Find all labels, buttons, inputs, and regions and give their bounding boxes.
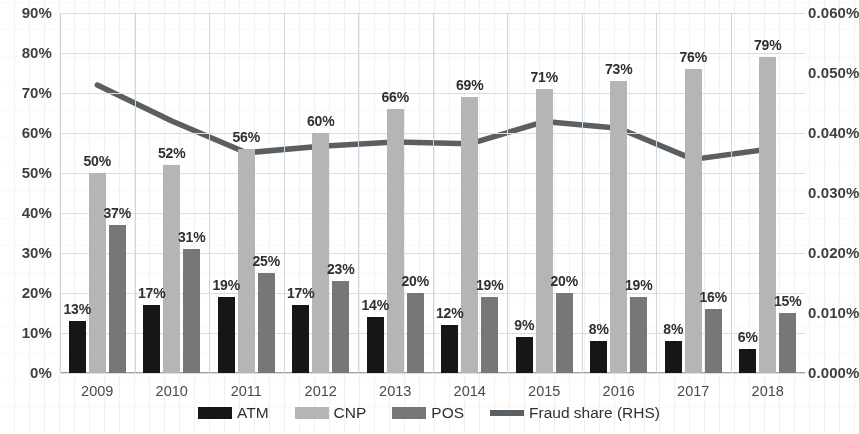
x-axis-tick-2016: 2016 <box>589 383 649 399</box>
bar-atm-2018 <box>739 349 756 373</box>
legend-item-cnp[interactable]: CNP <box>295 404 367 422</box>
bar-value-label: 56% <box>224 129 268 145</box>
y-axis-right-tick: 0.030% <box>808 184 859 201</box>
bar-pos-2009 <box>109 225 126 373</box>
bar-value-label: 12% <box>428 305 472 321</box>
bar-pos-2013 <box>407 293 424 373</box>
bar-atm-2016 <box>590 341 607 373</box>
bar-atm-2015 <box>516 337 533 373</box>
category-separator <box>209 13 210 373</box>
x-axis-tick-2018: 2018 <box>738 383 798 399</box>
legend-label: ATM <box>237 404 269 422</box>
y-axis-left-tick: 80% <box>22 44 52 61</box>
y-axis-left-tick: 30% <box>22 244 52 261</box>
bar-cnp-2013 <box>387 109 404 373</box>
y-axis-left-tick: 50% <box>22 164 52 181</box>
bar-value-label: 25% <box>244 253 288 269</box>
bar-value-label: 20% <box>542 273 586 289</box>
x-axis-tick-2013: 2013 <box>365 383 425 399</box>
category-separator <box>135 13 136 373</box>
y-axis-left-tick: 20% <box>22 284 52 301</box>
y-axis-right-tick: 0.040% <box>808 124 859 141</box>
y-axis-right-tick: 0.020% <box>808 244 859 261</box>
bar-value-label: 8% <box>577 321 621 337</box>
bar-value-label: 66% <box>373 89 417 105</box>
x-axis-tick-2012: 2012 <box>291 383 351 399</box>
bar-value-label: 19% <box>468 277 512 293</box>
bar-atm-2014 <box>441 325 458 373</box>
bar-atm-2017 <box>665 341 682 373</box>
legend-item-fraud-share-rhs[interactable]: Fraud share (RHS) <box>490 404 660 422</box>
bar-pos-2015 <box>556 293 573 373</box>
bar-value-label: 16% <box>691 289 735 305</box>
bar-value-label: 17% <box>279 285 323 301</box>
bar-pos-2010 <box>183 249 200 373</box>
y-axis-right-tick: 0.000% <box>808 364 859 381</box>
bar-pos-2018 <box>779 313 796 373</box>
x-axis-tick-2017: 2017 <box>663 383 723 399</box>
bar-value-label: 79% <box>746 37 790 53</box>
legend-label: CNP <box>334 404 367 422</box>
bar-value-label: 31% <box>170 229 214 245</box>
bar-cnp-2009 <box>89 173 106 373</box>
legend-label: POS <box>431 404 464 422</box>
bar-value-label: 14% <box>353 297 397 313</box>
legend-swatch-icon <box>295 407 329 419</box>
x-axis-tick-2010: 2010 <box>142 383 202 399</box>
legend-item-pos[interactable]: POS <box>392 404 464 422</box>
bar-pos-2016 <box>630 297 647 373</box>
x-axis-tick-2014: 2014 <box>440 383 500 399</box>
bar-value-label: 60% <box>299 113 343 129</box>
category-separator <box>582 13 583 373</box>
legend-item-atm[interactable]: ATM <box>198 404 269 422</box>
bar-pos-2011 <box>258 273 275 373</box>
legend-swatch-icon <box>392 407 426 419</box>
category-separator <box>60 13 61 373</box>
bar-pos-2014 <box>481 297 498 373</box>
bar-cnp-2012 <box>312 133 329 373</box>
y-axis-left-tick: 90% <box>22 4 52 21</box>
x-axis-tick-2009: 2009 <box>67 383 127 399</box>
category-separator <box>731 13 732 373</box>
bar-atm-2010 <box>143 305 160 373</box>
bar-value-label: 15% <box>766 293 810 309</box>
bar-value-label: 6% <box>726 329 770 345</box>
x-axis-tick-2011: 2011 <box>216 383 276 399</box>
y-axis-right-tick: 0.050% <box>808 64 859 81</box>
bar-atm-2013 <box>367 317 384 373</box>
bar-value-label: 71% <box>522 69 566 85</box>
bar-atm-2009 <box>69 321 86 373</box>
legend-swatch-icon <box>198 407 232 419</box>
bar-value-label: 19% <box>204 277 248 293</box>
y-axis-right-tick: 0.060% <box>808 4 859 21</box>
bar-value-label: 69% <box>448 77 492 93</box>
y-axis-left-tick: 10% <box>22 324 52 341</box>
category-separator <box>656 13 657 373</box>
bar-value-label: 17% <box>130 285 174 301</box>
category-separator <box>358 13 359 373</box>
bar-value-label: 9% <box>502 317 546 333</box>
bar-value-label: 76% <box>671 49 715 65</box>
legend-line-marker-icon <box>490 410 524 416</box>
bar-value-label: 13% <box>55 301 99 317</box>
bar-pos-2012 <box>332 281 349 373</box>
chart-legend: ATMCNPPOSFraud share (RHS) <box>0 404 858 422</box>
bar-value-label: 8% <box>651 321 695 337</box>
bar-value-label: 19% <box>617 277 661 293</box>
y-axis-left-tick: 70% <box>22 84 52 101</box>
category-separator <box>284 13 285 373</box>
y-axis-left-tick: 0% <box>30 364 52 381</box>
bar-pos-2017 <box>705 309 722 373</box>
y-axis-left-tick: 60% <box>22 124 52 141</box>
bar-atm-2012 <box>292 305 309 373</box>
y-axis-right-tick: 0.010% <box>808 304 859 321</box>
x-axis-tick-2015: 2015 <box>514 383 574 399</box>
bar-cnp-2014 <box>461 97 478 373</box>
bar-value-label: 20% <box>393 273 437 289</box>
bar-value-label: 50% <box>75 153 119 169</box>
gridline <box>60 373 805 374</box>
bar-value-label: 37% <box>95 205 139 221</box>
bar-value-label: 52% <box>150 145 194 161</box>
legend-label: Fraud share (RHS) <box>529 404 660 422</box>
